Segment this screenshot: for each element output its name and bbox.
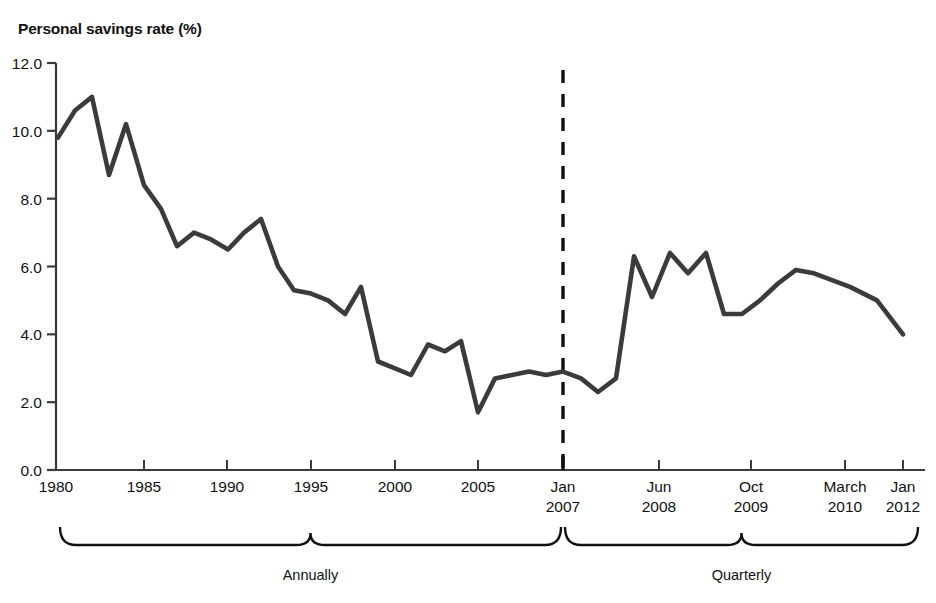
x-axis-tick-label: Jun <box>647 478 672 495</box>
x-axis-tick-sublabel: 2009 <box>734 498 768 515</box>
x-axis-tick-sublabel: 2012 <box>886 498 920 515</box>
y-axis-tick-label: 2.0 <box>20 394 42 411</box>
y-axis-tick-label: 12.0 <box>12 55 43 72</box>
x-axis-tick-label: Jan <box>891 478 916 495</box>
x-axis-tick-label: 2000 <box>378 478 413 495</box>
x-axis-tick-label: 1995 <box>294 478 328 495</box>
frequency-braces: AnnuallyQuarterly <box>60 527 918 583</box>
chart-plot-area: 0.02.04.06.08.010.012.0 1980198519901995… <box>0 0 936 603</box>
annually-brace <box>60 527 561 545</box>
x-axis-tick-label: March <box>823 478 866 495</box>
x-axis-tick-sublabel: 2010 <box>828 498 863 515</box>
x-axis-tick-label: 1990 <box>210 478 245 495</box>
x-axis-tick-label: Oct <box>739 478 764 495</box>
x-axis-tick-label: Jan <box>551 478 576 495</box>
savings-rate-line <box>58 97 903 412</box>
x-axis-tick-label: 2005 <box>461 478 495 495</box>
annually-brace-label: Annually <box>283 567 339 583</box>
x-axis-tick-label: 1985 <box>127 478 161 495</box>
y-axis-tick-label: 6.0 <box>20 259 42 276</box>
y-axis-tick-label: 4.0 <box>20 326 42 343</box>
x-axis: 198019851990199520002005Jan2007Jun2008Oc… <box>39 460 925 515</box>
y-axis-tick-label: 8.0 <box>20 191 42 208</box>
savings-rate-polyline <box>58 97 903 412</box>
y-axis-tick-label: 0.0 <box>20 462 42 479</box>
x-axis-tick-sublabel: 2007 <box>546 498 580 515</box>
x-axis-tick-sublabel: 2008 <box>642 498 676 515</box>
quarterly-brace <box>565 527 918 545</box>
y-axis-tick-label: 10.0 <box>12 123 43 140</box>
x-axis-tick-label: 1980 <box>39 478 74 495</box>
quarterly-brace-label: Quarterly <box>712 567 772 583</box>
y-axis: 0.02.04.06.08.010.012.0 <box>12 55 56 479</box>
chart-figure: Personal savings rate (%) 0.02.04.06.08.… <box>0 0 936 603</box>
